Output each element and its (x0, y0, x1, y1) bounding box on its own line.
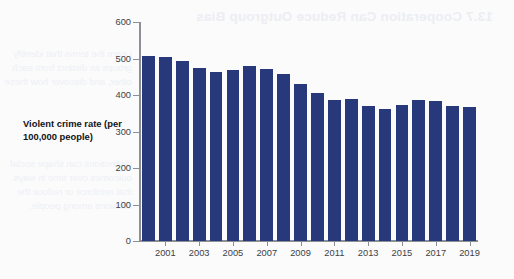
x-tick (267, 241, 268, 246)
y-tick-label: 400 (115, 90, 131, 100)
bar-chart-figure: Violent crime rate (per 100,000 people) … (0, 0, 514, 279)
y-tick-label: 500 (115, 54, 131, 64)
bar-slot (446, 22, 459, 241)
y-tick (133, 132, 140, 133)
bar-2015 (396, 105, 409, 242)
x-tick (334, 241, 335, 246)
x-tick-label-2005: 2005 (223, 248, 244, 258)
bar-2001 (159, 57, 172, 241)
x-tick (436, 241, 437, 246)
y-tick (133, 241, 140, 242)
x-tick (470, 241, 471, 246)
bar-2012 (345, 99, 358, 241)
x-tick-label-2011: 2011 (324, 248, 344, 258)
bar-slot (294, 22, 307, 241)
x-tick-label-2013: 2013 (358, 248, 379, 258)
x-tick-label-2001: 2001 (155, 248, 176, 258)
bar-series (140, 22, 478, 241)
bar-2007 (260, 69, 273, 241)
y-tick-label: 0 (126, 236, 131, 246)
bar-2011 (328, 100, 341, 241)
x-tick-label-2003: 2003 (189, 248, 210, 258)
x-tick (233, 241, 234, 246)
bar-slot (176, 22, 189, 241)
bar-2016 (412, 100, 425, 241)
bar-slot (429, 22, 442, 241)
bar-2009 (294, 84, 307, 241)
bar-slot (210, 22, 223, 241)
bar-slot (412, 22, 425, 241)
bar-2018 (446, 106, 459, 241)
bar-slot (379, 22, 392, 241)
x-tick-label-2019: 2019 (459, 248, 480, 258)
bar-slot (396, 22, 409, 241)
bar-slot (142, 22, 155, 241)
x-tick-label-2007: 2007 (256, 248, 277, 258)
bar-2003 (193, 68, 206, 241)
bar-2002 (176, 61, 189, 241)
y-tick-label: 100 (115, 200, 131, 210)
x-tick (301, 241, 302, 246)
bar-slot (260, 22, 273, 241)
bar-slot (243, 22, 256, 241)
y-tick-label: 600 (115, 17, 131, 27)
bar-2005 (227, 70, 240, 241)
x-tick (165, 241, 166, 246)
x-tick-label-2009: 2009 (290, 248, 311, 258)
bar-2004 (210, 72, 223, 241)
y-tick (133, 59, 140, 60)
bar-2019 (463, 107, 476, 241)
y-tick (133, 205, 140, 206)
bar-slot (193, 22, 206, 241)
x-tick (199, 241, 200, 246)
x-tick (402, 241, 403, 246)
x-tick-label-2015: 2015 (392, 248, 413, 258)
bar-2006 (243, 66, 256, 241)
bar-2008 (277, 74, 290, 241)
bar-slot (463, 22, 476, 241)
bar-2014 (379, 109, 392, 241)
bar-2000 (142, 56, 155, 241)
bar-slot (227, 22, 240, 241)
y-tick-label: 200 (115, 163, 131, 173)
bar-slot (159, 22, 172, 241)
y-tick-label: 300 (115, 127, 131, 137)
y-tick (133, 168, 140, 169)
bar-slot (277, 22, 290, 241)
plot-area: 0100200300400500600 20012003200520072009… (140, 22, 478, 241)
bar-slot (345, 22, 358, 241)
x-tick-label-2017: 2017 (425, 248, 446, 258)
y-tick (133, 22, 140, 23)
x-tick (368, 241, 369, 246)
bar-2010 (311, 93, 324, 241)
bar-2013 (362, 106, 375, 241)
bar-slot (328, 22, 341, 241)
y-tick (133, 95, 140, 96)
bar-slot (362, 22, 375, 241)
bar-2017 (429, 101, 442, 241)
bar-slot (311, 22, 324, 241)
